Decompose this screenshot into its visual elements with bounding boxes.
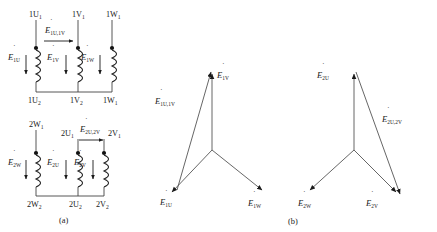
coil-emf-label-1V: E1V [46,52,59,63]
vector-E2U-2V [356,72,400,194]
coil-emf-label-1W: E1W [80,52,95,63]
dot-accent-E1U: ˙ [165,189,168,198]
upper-bottom-terminal-labels: 1U2 1V2 1W1 [28,96,118,106]
vector-E1W [212,150,262,190]
dot-accent-2V: ˙ [79,149,82,158]
terminal-label-1W1: 1W1 [106,10,121,20]
vector-E2W [310,150,354,190]
label-E2U: E2U [316,70,329,81]
coil-1U [36,50,41,82]
label-E2U-2V: E2U,2V [381,114,402,125]
dot-accent-1W: ˙ [86,44,89,53]
caption-b: (b) [288,217,298,226]
terminal-label-1W1-bottom: 1W1 [103,96,118,106]
terminal-label-1V1: 1V1 [72,10,85,20]
dot-accent-E2V: ˙ [371,190,374,199]
dot-accent-E2W: ˙ [303,190,306,199]
lower-bottom-terminal-labels: 2W2 2U2 2V2 [27,200,109,210]
dot-accent-2U: ˙ [52,149,55,158]
label-E1W: E1W [247,198,262,209]
upper-polarity-dots [34,46,114,50]
polarity-dot-2V [102,151,106,155]
vector-E1U-1V [177,72,211,190]
dot-accent-E2U: ˙ [322,62,325,71]
upper-line-emf: ˙ E1U,1V [44,18,73,41]
label-E1V: E1V [216,70,229,81]
right-star-arms [310,72,400,194]
label-E1U: E1U [159,197,172,208]
label-E2V: E2V [365,198,378,209]
panel-a-lower-circuit: 2W1 2U1 2V1 ˙ E2U,2V [7,117,121,225]
upper-coil-emf-labels: ˙ E1U ˙ E1V ˙ E1W [7,44,95,63]
coil-emf-label-2V: E2V [73,157,86,168]
coil-2V [104,155,109,187]
coil-emf-label-1U: E1U [7,52,20,63]
lower-polarity-dots [34,151,106,155]
polarity-dot-1U [34,46,38,50]
panel-b-right-star: ˙ E2U ˙ E2U,2V ˙ E2W ˙ E2V (b) [288,62,402,226]
polarity-dot-2W [34,151,38,155]
coil-2W [36,155,41,187]
line-emf-label-2: E2U,2V [79,124,100,135]
coil-1W [112,50,117,82]
lower-top-terminal-labels: 2W1 2U1 2V1 [29,120,121,139]
line-emf-label: E1U,1V [44,25,65,36]
lower-coil-emf-labels: ˙ E2W ˙ E2U ˙ E2V [7,149,86,168]
figure-container: 1U1 1V1 1W1 ˙ E1U,1V [0,0,437,232]
polarity-dot-1W [110,46,114,50]
terminal-label-2U2: 2U2 [69,200,82,210]
dot-accent-E1V: ˙ [222,62,225,71]
panel-b-left-star: ˙ E1V ˙ E1U,1V ˙ E1U ˙ E1W [154,62,262,209]
terminal-label-2W1: 2W1 [29,120,44,130]
figure-svg: 1U1 1V1 1W1 ˙ E1U,1V [0,0,437,232]
upper-top-terminal-labels: 1U1 1V1 1W1 [29,10,121,20]
coil-emf-label-2U: E2U [46,157,59,168]
dot-accent-1V: ˙ [52,44,55,53]
dot-accent-E1U-1V: ˙ [160,88,163,97]
left-star-arms [172,72,262,192]
polarity-dot-1V [76,46,80,50]
dot-accent-E1W: ˙ [253,190,256,199]
dot-accent-1U: ˙ [13,44,16,53]
vector-E2V [354,150,396,192]
terminal-label-1U2: 1U2 [28,96,41,106]
dot-accent-line-emf-2: ˙ [85,117,88,126]
terminal-label-2W2: 2W2 [27,200,42,210]
dot-accent-line-emf: ˙ [50,18,53,27]
terminal-label-2V1: 2V1 [108,129,121,139]
dot-accent-E2U-2V: ˙ [387,106,390,115]
lower-bottom-leads [36,187,104,196]
caption-a: (a) [59,216,69,225]
lower-line-emf: ˙ E2U,2V [79,117,103,140]
coil-emf-label-2W: E2W [7,157,22,168]
panel-a-upper-circuit: 1U1 1V1 1W1 ˙ E1U,1V [7,10,121,106]
label-E2W: E2W [297,198,312,209]
terminal-label-1U1: 1U1 [29,10,42,20]
terminal-label-2U1: 2U1 [61,129,74,139]
upper-bottom-leads [36,82,112,92]
terminal-label-2V2: 2V2 [96,200,109,210]
dot-accent-2W: ˙ [13,149,16,158]
label-E1U-1V: E1U,1V [154,96,175,107]
terminal-label-1V2: 1V2 [70,96,83,106]
